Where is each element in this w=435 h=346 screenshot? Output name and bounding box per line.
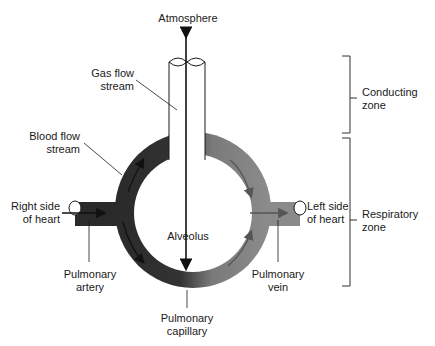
label-blood-flow-line1: Blood flow xyxy=(20,130,80,143)
label-right-side-of-heart: Right side of heart xyxy=(0,200,60,226)
label-right-heart-line1: Right side xyxy=(0,200,60,213)
diagram-canvas xyxy=(0,0,435,346)
label-pulm-vein-line1: Pulmonary xyxy=(246,268,310,281)
label-atmosphere: Atmosphere xyxy=(148,12,228,25)
label-right-heart-line2: of heart xyxy=(0,213,60,226)
label-conducting-zone: Conducting zone xyxy=(362,86,432,112)
label-pulm-artery-line2: artery xyxy=(58,281,122,294)
label-blood-flow-stream: Blood flow stream xyxy=(20,130,80,156)
airway-tube xyxy=(169,58,205,162)
label-pulm-vein-line2: vein xyxy=(246,281,310,294)
label-conducting-line2: zone xyxy=(362,99,432,112)
alveolus xyxy=(134,154,252,272)
label-left-heart-line1: Left side xyxy=(307,200,367,213)
label-left-heart-line2: of heart xyxy=(307,213,367,226)
label-gas-flow-stream: Gas flow stream xyxy=(80,67,134,93)
label-respiratory-zone: Respiratory zone xyxy=(362,208,432,234)
label-blood-flow-line2: stream xyxy=(20,143,80,156)
zone-brackets xyxy=(342,56,357,286)
label-left-side-of-heart: Left side of heart xyxy=(307,200,367,226)
label-pulmonary-vein: Pulmonary vein xyxy=(246,268,310,294)
label-alveolus: Alveolus xyxy=(163,230,213,243)
label-gas-flow-line1: Gas flow xyxy=(80,67,134,80)
label-pulm-capillary-line2: capillary xyxy=(155,325,219,338)
label-conducting-line1: Conducting xyxy=(362,86,432,99)
label-gas-flow-line2: stream xyxy=(80,80,134,93)
label-respiratory-line1: Respiratory xyxy=(362,208,432,221)
label-pulm-artery-line1: Pulmonary xyxy=(58,268,122,281)
label-pulm-capillary-line1: Pulmonary xyxy=(155,312,219,325)
label-pulmonary-artery: Pulmonary artery xyxy=(58,268,122,294)
label-pulmonary-capillary: Pulmonary capillary xyxy=(155,312,219,338)
label-respiratory-line2: zone xyxy=(362,221,432,234)
